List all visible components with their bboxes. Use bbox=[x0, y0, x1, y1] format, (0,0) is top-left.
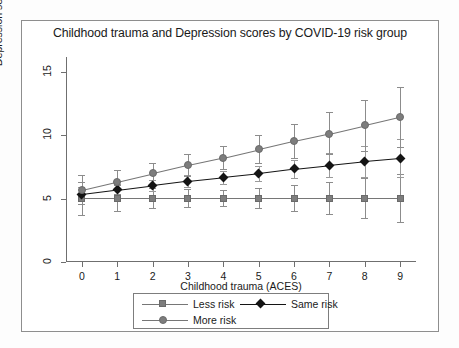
x-tick-mark bbox=[365, 262, 366, 267]
error-bar-cap bbox=[291, 178, 298, 179]
x-tick-mark bbox=[259, 262, 260, 267]
data-point-marker bbox=[396, 113, 404, 121]
data-point-marker bbox=[255, 195, 262, 202]
error-bar-cap bbox=[397, 222, 404, 223]
legend-item[interactable]: Same risk bbox=[238, 296, 334, 312]
series-line bbox=[365, 158, 400, 162]
error-bar-cap bbox=[220, 190, 227, 191]
error-bar-cap bbox=[184, 187, 191, 188]
series-line bbox=[365, 117, 401, 126]
error-bar-cap bbox=[291, 158, 298, 159]
error-bar-cap bbox=[326, 112, 333, 113]
chart-title: Childhood trauma and Depression scores b… bbox=[21, 26, 439, 40]
data-point-marker bbox=[113, 178, 121, 186]
error-bar-cap bbox=[397, 177, 404, 178]
series-line bbox=[223, 149, 259, 158]
diamond-marker-icon bbox=[256, 299, 266, 309]
y-tick-mark bbox=[61, 262, 66, 263]
data-point-marker bbox=[219, 154, 227, 162]
series-line bbox=[259, 198, 294, 199]
legend-item[interactable]: More risk bbox=[140, 312, 236, 328]
chart-legend: Less riskSame riskMore risk bbox=[133, 293, 329, 329]
legend-label: Less risk bbox=[193, 296, 234, 312]
data-point-marker bbox=[254, 168, 264, 178]
x-tick-mark bbox=[153, 262, 154, 267]
error-bar-cap bbox=[397, 87, 404, 88]
series-line bbox=[223, 198, 258, 199]
series-line bbox=[259, 169, 294, 174]
error-bar-cap bbox=[149, 208, 156, 209]
error-bar-cap bbox=[114, 211, 121, 212]
series-line bbox=[365, 198, 400, 199]
series-line bbox=[153, 198, 188, 199]
series-line bbox=[82, 190, 117, 195]
error-bar-cap bbox=[326, 182, 333, 183]
y-tick-label: 5 bbox=[41, 191, 53, 205]
error-bar-cap bbox=[78, 204, 85, 205]
y-axis-title: Depression severity (CES-D-10) bbox=[0, 0, 4, 101]
plot-area: 0510150123456789 bbox=[66, 57, 416, 262]
series-line bbox=[294, 198, 329, 199]
data-point-marker bbox=[361, 121, 369, 129]
error-bar-cap bbox=[184, 207, 191, 208]
data-point-marker bbox=[291, 195, 298, 202]
x-tick-mark bbox=[117, 262, 118, 267]
error-bar-cap bbox=[78, 175, 85, 176]
y-tick-mark bbox=[61, 72, 66, 73]
legend-item[interactable]: Less risk bbox=[140, 296, 236, 312]
error-bar-cap bbox=[361, 151, 368, 152]
error-bar-cap bbox=[255, 208, 262, 209]
error-bar-cap bbox=[220, 146, 227, 147]
y-axis-title-wrapper: Depression severity (CES-D-10) bbox=[28, 57, 48, 262]
y-tick-mark bbox=[61, 199, 66, 200]
series-line bbox=[259, 141, 295, 150]
error-bar-cap bbox=[184, 189, 191, 190]
error-bar-cap bbox=[78, 215, 85, 216]
x-tick-mark bbox=[223, 262, 224, 267]
error-bar-cap bbox=[291, 185, 298, 186]
series-line bbox=[117, 173, 153, 182]
error-bar-cap bbox=[361, 177, 368, 178]
square-marker-icon bbox=[159, 300, 166, 307]
data-point-marker bbox=[220, 195, 227, 202]
error-bar-cap bbox=[114, 170, 121, 171]
series-line bbox=[188, 158, 224, 167]
error-bar-cap bbox=[326, 177, 333, 178]
data-point-marker bbox=[184, 161, 192, 169]
x-tick-mark bbox=[188, 262, 189, 267]
data-point-marker bbox=[183, 176, 193, 186]
error-bar-cap bbox=[326, 154, 333, 155]
series-line bbox=[117, 198, 152, 199]
data-point-marker bbox=[255, 145, 263, 153]
error-bar-cap bbox=[291, 211, 298, 212]
error-bar-cap bbox=[220, 169, 227, 170]
x-tick-mark bbox=[329, 262, 330, 267]
series-line bbox=[294, 134, 330, 143]
data-point-marker bbox=[361, 195, 368, 202]
error-bar-cap bbox=[255, 188, 262, 189]
data-point-marker bbox=[289, 164, 299, 174]
error-bar-cap bbox=[361, 178, 368, 179]
error-bar-cap bbox=[255, 181, 262, 182]
error-bar-cap bbox=[291, 160, 298, 161]
data-point-marker bbox=[114, 195, 121, 202]
data-point-marker bbox=[360, 156, 370, 166]
data-point-marker bbox=[218, 172, 228, 182]
series-line bbox=[329, 125, 365, 134]
circle-marker-icon bbox=[159, 316, 167, 324]
data-point-marker bbox=[324, 160, 334, 170]
x-axis-title: Childhood trauma (ACES) bbox=[66, 280, 416, 292]
data-point-marker bbox=[325, 130, 333, 138]
figure-container: Childhood trauma and Depression scores b… bbox=[0, 0, 459, 348]
error-bar-cap bbox=[255, 166, 262, 167]
x-tick-mark bbox=[400, 262, 401, 267]
y-tick-label: 10 bbox=[41, 127, 53, 141]
error-bar-cap bbox=[255, 135, 262, 136]
series-line bbox=[329, 198, 364, 199]
legend-label: More risk bbox=[193, 312, 236, 328]
error-bar-cap bbox=[149, 191, 156, 192]
series-line bbox=[82, 198, 117, 199]
legend-label: Same risk bbox=[291, 296, 338, 312]
error-bar-cap bbox=[255, 163, 262, 164]
x-tick-mark bbox=[294, 262, 295, 267]
